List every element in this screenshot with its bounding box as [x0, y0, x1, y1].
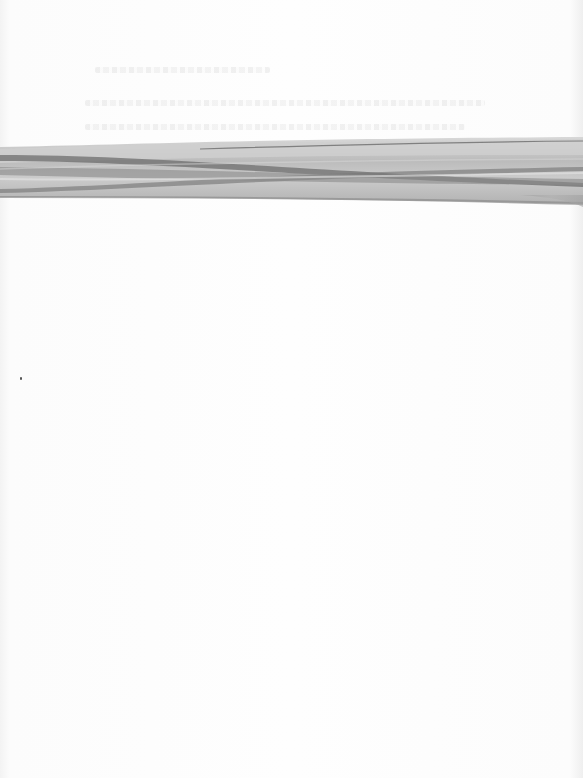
show-through-line-2 — [85, 100, 485, 106]
scanned-page — [0, 0, 583, 778]
twisted-ribbon-graphic — [0, 125, 583, 215]
scan-speck — [20, 377, 22, 380]
show-through-line-1 — [95, 67, 270, 73]
